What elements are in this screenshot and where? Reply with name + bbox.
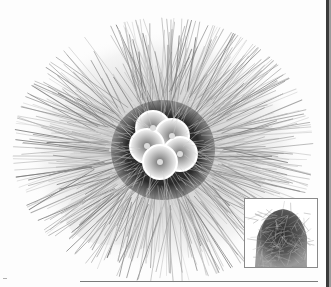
caption-rule: [80, 281, 318, 282]
book-page: [0, 0, 331, 287]
cactus-side-photo: [245, 199, 317, 267]
inset-photo: [244, 198, 318, 268]
page-mark: [3, 278, 7, 279]
